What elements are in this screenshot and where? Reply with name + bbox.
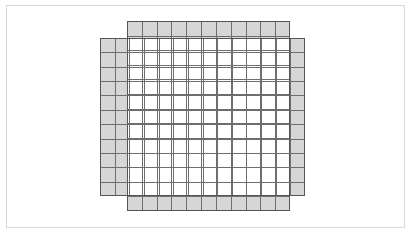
vertical-grid xyxy=(100,38,305,196)
figure-canvas xyxy=(0,0,412,235)
grid-stage xyxy=(0,0,412,235)
vertical-grid-outline xyxy=(100,38,305,196)
